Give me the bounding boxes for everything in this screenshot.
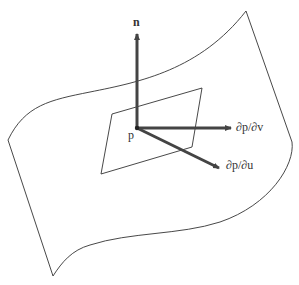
- diagram-canvas: n p ∂p/∂v ∂p/∂u: [0, 0, 299, 285]
- surface-outline: [8, 11, 292, 276]
- point-p-dot: [135, 126, 139, 130]
- normal-label: n: [133, 16, 140, 28]
- dp-du-vector-arrow: [137, 128, 219, 168]
- tangent-plane: [101, 88, 202, 174]
- diagram-svg: [0, 0, 299, 285]
- point-label: p: [128, 129, 134, 141]
- dp-dv-label: ∂p/∂v: [236, 121, 263, 133]
- dp-du-label: ∂p/∂u: [226, 159, 253, 171]
